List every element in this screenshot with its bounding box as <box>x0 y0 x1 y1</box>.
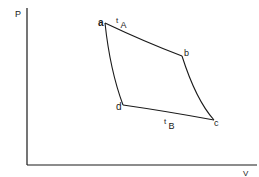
isotherm-top-label: t A <box>116 16 126 30</box>
isotherm-bottom-main: t <box>164 117 167 126</box>
adiabat-bc <box>182 56 214 120</box>
pv-diagram: P V a b c d t A t B <box>0 0 259 177</box>
point-b-label: b <box>184 48 189 58</box>
point-a-label: a <box>98 17 104 28</box>
y-axis-label: P <box>15 9 21 19</box>
point-d-label: d <box>116 101 122 112</box>
isotherm-cd <box>123 105 214 120</box>
isotherm-ab <box>105 23 182 56</box>
isotherm-top-main: t <box>116 16 119 25</box>
x-axis-label: V <box>243 169 249 177</box>
isotherm-bottom-sub: B <box>168 121 174 131</box>
adiabat-da <box>105 23 123 105</box>
point-c-label: c <box>214 118 219 128</box>
isotherm-bottom-label: t B <box>164 117 174 131</box>
isotherm-top-sub: A <box>120 20 126 30</box>
